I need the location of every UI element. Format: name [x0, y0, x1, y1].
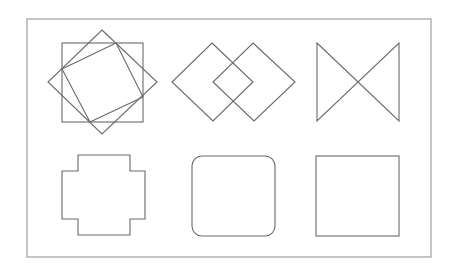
outer-frame: [27, 19, 431, 257]
figure-two-diamonds: [172, 43, 295, 121]
axis-square: [62, 43, 143, 122]
figure-square: [316, 156, 399, 236]
cross-shape: [62, 155, 145, 235]
figure-bowtie: [317, 43, 399, 121]
bowtie: [317, 43, 399, 121]
figure-rotated-squares: [48, 30, 157, 134]
figure-cross: [62, 155, 145, 235]
rounded-square: [192, 156, 275, 236]
diagram-canvas: [0, 0, 455, 266]
diamond-square: [48, 30, 157, 134]
plain-square: [316, 156, 399, 236]
figure-rounded-square: [192, 156, 275, 236]
tilted-square: [62, 43, 143, 122]
